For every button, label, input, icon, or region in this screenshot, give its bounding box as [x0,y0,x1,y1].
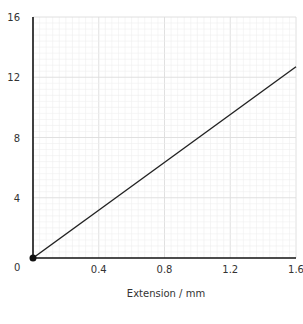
x-tick-label: 1.6 [288,264,303,275]
y-tick-label: 12 [7,72,20,83]
origin-marker [30,255,37,262]
origin-label: 0 [14,262,20,273]
y-tick-label: 4 [14,193,20,204]
x-axis-label: Extension / mm [127,288,205,299]
x-tick-label: 1.2 [222,264,238,275]
y-tick-labels: 481216 [7,12,20,204]
line-chart: 481216 0.40.81.21.6 0 Extension / mm [0,0,303,324]
y-tick-label: 8 [14,133,20,144]
y-tick-label: 16 [7,12,20,23]
x-tick-label: 0.8 [157,264,173,275]
x-tick-labels: 0.40.81.21.6 [91,264,303,275]
x-tick-label: 0.4 [91,264,107,275]
grid [33,17,296,258]
